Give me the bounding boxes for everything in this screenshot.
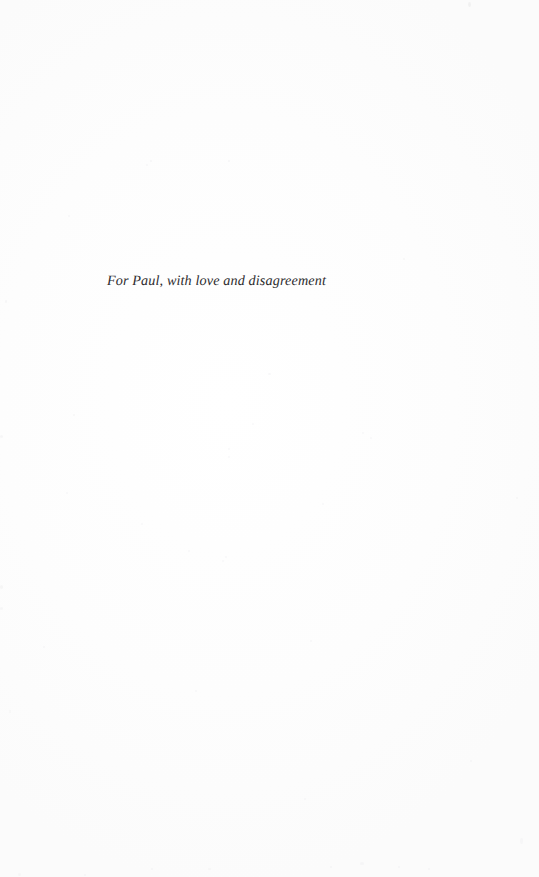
scan-speck xyxy=(403,258,405,260)
scan-speck xyxy=(398,866,400,868)
scan-speck xyxy=(362,432,364,434)
scan-speck xyxy=(43,646,45,648)
scan-speck xyxy=(322,503,324,505)
scan-speck xyxy=(0,435,3,438)
scan-speck xyxy=(470,760,472,762)
scan-speck xyxy=(0,607,3,610)
scan-speck xyxy=(208,868,211,870)
scan-speck xyxy=(310,640,312,642)
scan-speck xyxy=(252,423,254,425)
scan-speck xyxy=(304,798,306,800)
scan-speck xyxy=(222,560,224,562)
scan-speck xyxy=(68,215,70,217)
scan-speck xyxy=(151,868,153,870)
scan-speck xyxy=(5,300,7,303)
scan-speck xyxy=(84,874,86,876)
scan-speck xyxy=(0,585,3,589)
scan-speck xyxy=(73,414,75,416)
scan-speck xyxy=(195,690,197,692)
scan-speck xyxy=(330,866,332,868)
scan-speck xyxy=(228,448,230,450)
scan-speck xyxy=(268,373,271,375)
scan-speck xyxy=(225,556,227,558)
scan-speck xyxy=(228,160,230,162)
scan-speck xyxy=(520,838,523,844)
book-page: For Paul, with love and disagreement xyxy=(0,0,539,877)
scan-speck xyxy=(428,868,430,870)
scan-speck xyxy=(228,456,230,458)
dedication-block: For Paul, with love and disagreement xyxy=(107,274,437,289)
scan-speck xyxy=(66,492,68,494)
scan-speck xyxy=(141,523,143,525)
scan-speck xyxy=(360,862,364,865)
scan-speck xyxy=(18,873,21,876)
scan-speck xyxy=(188,550,190,552)
scan-speck xyxy=(370,437,372,439)
scan-speck xyxy=(9,710,11,713)
scan-speck xyxy=(146,164,148,166)
scan-speck xyxy=(516,497,518,499)
scan-speck xyxy=(468,2,471,7)
paper-texture xyxy=(0,0,539,877)
scan-speckle-layer xyxy=(0,0,539,877)
dedication-text: For Paul, with love and disagreement xyxy=(107,274,437,289)
scan-speck xyxy=(150,160,152,162)
